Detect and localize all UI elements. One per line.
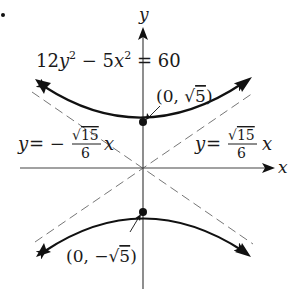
left-asym-num: √15 [72,127,99,143]
right-asym-y: y [194,133,206,154]
left-asym-y: y [17,133,29,154]
top-vertex-radical: √ [184,86,195,106]
eq-minus: − 5 [76,50,114,71]
right-asym-num: √15 [228,127,255,143]
right-asym-eq: = [206,133,221,154]
left-asym-x: x [104,133,114,154]
lower-left-arrow-icon [36,243,51,257]
right-asym-den: 6 [237,145,246,161]
x-axis-label: x [278,157,288,177]
vertex-top-point [139,118,147,126]
bullet-marker [1,13,5,17]
eq-exp-x: 2 [124,49,131,62]
left-asym-den: 6 [81,145,90,161]
bottom-vertex-close: ) [130,246,137,266]
hyperbola-diagram: y x 12y2 − 5x2 = 60 (0, √5) (0, −√5) y =… [0,0,293,289]
right-asym-x: x [262,133,272,154]
upper-right-arrow-icon [235,77,252,92]
top-vertex-radicand: 5 [195,86,206,106]
bottom-vertex-radicand: 5 [119,246,130,266]
left-asym-radicand: 15 [81,127,99,143]
eq-rhs: = 60 [131,50,180,71]
top-vertex-open: (0, [156,86,184,106]
right-asym-radicand: 15 [237,127,255,143]
eq-exp-y: 2 [69,49,76,62]
lower-right-arrow-icon [235,243,251,257]
left-asymptote-label: y = − √15 6 x [17,127,114,161]
eq-var-x: x [114,50,124,71]
right-asym-radical: √ [228,127,237,143]
top-vertex-label: (0, √5) [156,86,213,106]
bottom-vertex-radical: √ [109,246,120,266]
right-asymptote-label: y = √15 6 x [194,127,272,161]
upper-left-arrow-icon [35,79,51,94]
eq-coef: 12 [36,50,59,71]
top-vertex-close: ) [206,86,213,106]
left-asym-radical: √ [72,127,81,143]
y-axis-label: y [138,4,149,24]
bottom-vertex-label: (0, −√5) [66,246,137,266]
upper-branch [45,83,243,118]
left-asym-eq: = − [29,133,65,154]
bottom-vertex-open: (0, − [66,246,109,266]
equation-label: 12y2 − 5x2 = 60 [36,49,181,71]
